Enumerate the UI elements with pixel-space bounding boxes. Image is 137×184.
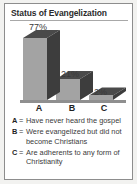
legend-text-c: Are adherents to any form ofChristianity xyxy=(26,148,130,167)
x-axis-label-c: C xyxy=(97,103,111,113)
legend-text-b-line2: become Christians xyxy=(26,137,87,146)
legend-item-a: A = Have never heard the gospel xyxy=(12,116,130,126)
legend-item-b: B = Were evangelized but did notbecome C… xyxy=(12,127,130,146)
bar-a-front-face xyxy=(23,38,47,100)
legend-key-b: B xyxy=(12,127,19,137)
bar-a xyxy=(23,30,60,100)
legend-equals-b: = xyxy=(19,127,26,137)
legend-equals-a: = xyxy=(19,116,26,126)
legend-item-c: C = Are adherents to any form ofChristia… xyxy=(12,148,130,167)
legend-equals-c: = xyxy=(19,148,26,158)
bar-value-label-b: 21% xyxy=(61,69,79,79)
chart-title: Status of Evangelization xyxy=(11,8,107,18)
x-axis-label-b: B xyxy=(65,103,79,113)
chart-figure: Status of Evangelization xyxy=(0,0,137,184)
legend-key-a: A xyxy=(12,116,19,126)
bar-value-label-a: 77% xyxy=(29,22,47,32)
chart-legend: A = Have never heard the gospel B = Were… xyxy=(12,116,130,168)
legend-text-c-line1: Are adherents to any form of xyxy=(26,148,120,157)
chart-frame: Status of Evangelization xyxy=(4,3,133,180)
bar-chart-svg xyxy=(10,21,129,114)
legend-key-c: C xyxy=(12,148,19,158)
legend-text-b: Were evangelized but did notbecome Chris… xyxy=(26,127,130,146)
legend-text-c-line2: Christianity xyxy=(26,157,63,166)
bar-chart-plot: 77% 21% 2% A B C xyxy=(10,21,129,114)
bar-value-label-c: 2% xyxy=(94,87,107,97)
bar-a-side-face xyxy=(47,30,60,100)
legend-text-b-line1: Were evangelized but did not xyxy=(26,127,122,136)
legend-text-a: Have never heard the gospel xyxy=(26,116,130,126)
x-axis-label-a: A xyxy=(32,103,46,113)
